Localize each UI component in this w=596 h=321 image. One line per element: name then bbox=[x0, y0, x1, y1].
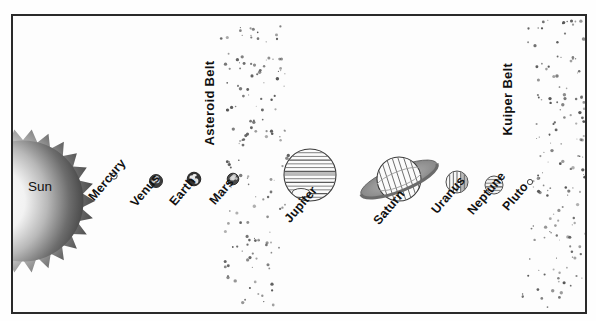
kuiper-belt-dots bbox=[522, 19, 585, 308]
planet-pluto bbox=[527, 179, 532, 184]
solar-system-artwork bbox=[13, 16, 585, 312]
kuiper-belt-label: Kuiper Belt bbox=[500, 63, 515, 136]
asteroid-belt-label: Asteroid Belt bbox=[202, 61, 217, 146]
sun-graphic bbox=[13, 130, 95, 273]
diagram-frame: Sun MercuryVenusEarthMarsJupiterSaturnUr… bbox=[11, 14, 587, 314]
sun-label: Sun bbox=[28, 179, 52, 194]
solar-system-diagram: Sun MercuryVenusEarthMarsJupiterSaturnUr… bbox=[0, 0, 596, 321]
asteroid-belt-dots bbox=[220, 25, 290, 306]
